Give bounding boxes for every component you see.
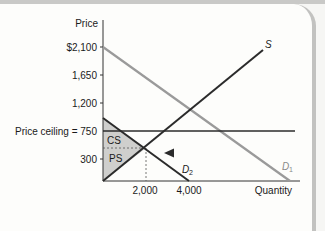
y-tick-label-1650: 1,650: [72, 70, 97, 81]
svg-text:1: 1: [289, 166, 293, 173]
producer-surplus-label: PS: [109, 153, 123, 164]
d2-label: D 2: [182, 164, 193, 176]
x-tick-label-2000: 2,000: [132, 185, 157, 196]
supply-curve-label: S: [265, 39, 272, 50]
y-tick-label-300: 300: [80, 154, 97, 165]
y-tick-label-1200: 1,200: [72, 98, 97, 109]
y-axis-label: Price: [75, 18, 98, 29]
demand-curve-d1: [103, 47, 290, 181]
demand-shift-arrow: [164, 149, 235, 158]
x-tick-label-4000: 4,000: [176, 185, 201, 196]
surplus-region: [103, 118, 146, 181]
svg-text:2: 2: [189, 169, 193, 176]
supply-curve: [103, 50, 263, 181]
price-ceiling-label: Price ceiling = 750: [15, 126, 97, 137]
y-tick-label-2100: $2,100: [66, 42, 97, 53]
supply-demand-chart: Price $2,100 1,650 1,200 Price ceiling =…: [0, 0, 325, 231]
d1-label: D 1: [282, 161, 293, 173]
x-axis-label: Quantity: [255, 185, 292, 196]
consumer-surplus-label: CS: [107, 135, 121, 146]
